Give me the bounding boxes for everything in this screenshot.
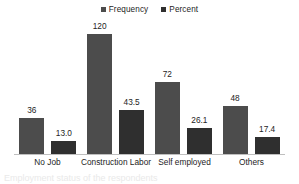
- figure-caption: Employment status of the respondents: [4, 173, 294, 183]
- legend-swatch-frequency-icon: [101, 7, 106, 12]
- bar-percent: [255, 137, 280, 154]
- bar-value-label: 72: [163, 70, 172, 78]
- bar-value-label: 26.1: [191, 116, 207, 124]
- x-tick-label: Self employed: [151, 158, 218, 166]
- bar-value-label: 36: [27, 106, 36, 114]
- bar-value-label: 120: [93, 22, 107, 30]
- x-tick-label: Others: [218, 158, 285, 166]
- bar-frequency: [223, 106, 248, 154]
- bar-slot-frequency-no-job: 36: [19, 22, 44, 154]
- bar-slot-percent-no-job: 13.0: [51, 22, 76, 154]
- bar-percent: [187, 128, 212, 154]
- bar-slot-frequency-self-employed: 72: [155, 22, 180, 154]
- bar-frequency: [87, 34, 112, 154]
- chart-legend: Frequency Percent: [0, 4, 299, 16]
- bar-chart: Frequency Percent 36 13.0 120: [0, 0, 299, 184]
- bar-percent: [51, 141, 76, 154]
- bar-value-label: 48: [231, 94, 240, 102]
- bar-slot-percent-self-employed: 26.1: [187, 22, 212, 154]
- legend-label-percent: Percent: [169, 6, 198, 14]
- x-tick-label: No Job: [14, 158, 81, 166]
- bar-value-label: 13.0: [56, 129, 72, 137]
- bar-group-self-employed: 72 26.1: [150, 22, 218, 154]
- bar-slot-frequency-others: 48: [223, 22, 248, 154]
- legend-item-percent: Percent: [161, 6, 198, 14]
- bar-frequency: [155, 82, 180, 154]
- x-axis-tick-labels: No Job Construction Labor Self employed …: [14, 158, 285, 166]
- bar-percent: [119, 110, 144, 154]
- legend-item-frequency: Frequency: [101, 6, 149, 14]
- bar-group-construction-labor: 120 43.5: [82, 22, 150, 154]
- bar-group-others: 48 17.4: [217, 22, 285, 154]
- bar-group-no-job: 36 13.0: [14, 22, 82, 154]
- bar-slot-percent-others: 17.4: [255, 22, 280, 154]
- x-tick-label: Construction Labor: [81, 158, 151, 166]
- bar-frequency: [19, 118, 44, 154]
- legend-label-frequency: Frequency: [109, 6, 149, 14]
- bar-slot-percent-construction-labor: 43.5: [119, 22, 144, 154]
- x-axis-line: [14, 154, 285, 155]
- bar-slot-frequency-construction-labor: 120: [87, 22, 112, 154]
- bar-value-label: 17.4: [259, 125, 275, 133]
- bar-value-label: 43.5: [124, 98, 140, 106]
- plot-area: 36 13.0 120 43.5: [14, 22, 285, 155]
- bar-groups: 36 13.0 120 43.5: [14, 22, 285, 154]
- legend-swatch-percent-icon: [161, 7, 166, 12]
